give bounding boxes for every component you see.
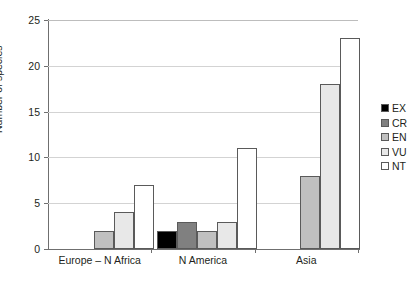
category-label: Asia — [255, 254, 358, 266]
category-tick — [358, 249, 359, 253]
legend-swatch-icon — [381, 133, 389, 141]
y-tick-label-0: 0 — [0, 243, 40, 255]
y-tick-label-25: 25 — [0, 14, 40, 26]
bar-group-bars — [157, 20, 257, 249]
bar-en — [300, 176, 320, 249]
legend-swatch-icon — [381, 104, 389, 112]
legend-item-label: VU — [392, 147, 407, 158]
legend-item-vu[interactable]: VU — [381, 145, 420, 160]
legend-swatch-icon — [381, 119, 389, 127]
bar-vu — [217, 222, 237, 249]
bar-en — [94, 231, 114, 249]
y-tick-label-10: 10 — [0, 151, 40, 163]
plot-area — [48, 20, 358, 249]
category-label: Europe – N Africa — [48, 254, 151, 266]
legend-swatch-icon — [381, 148, 389, 156]
bar-group-bars — [260, 20, 360, 249]
bar-chart-figure: Number of species 0510152025 Europe – N … — [0, 0, 420, 281]
legend: EXCRENVUNT — [381, 101, 420, 174]
category-label: N America — [151, 254, 254, 266]
bar-group — [48, 20, 151, 249]
legend-swatch-icon — [381, 162, 389, 170]
legend-item-label: CR — [392, 118, 407, 129]
bar-nt — [340, 38, 360, 249]
y-tick-label-20: 20 — [0, 60, 40, 72]
x-axis-line — [48, 249, 360, 250]
legend-item-label: NT — [392, 161, 406, 172]
bar-group — [255, 20, 358, 249]
bar-vu — [320, 84, 340, 249]
bar-en — [197, 231, 217, 249]
y-tick-label-5: 5 — [0, 197, 40, 209]
bar-ex — [157, 231, 177, 249]
y-tick-label-15: 15 — [0, 106, 40, 118]
legend-item-nt[interactable]: NT — [381, 159, 420, 174]
legend-item-en[interactable]: EN — [381, 130, 420, 145]
category-tick — [255, 249, 256, 253]
legend-item-ex[interactable]: EX — [381, 101, 420, 116]
category-tick — [151, 249, 152, 253]
legend-item-label: EX — [392, 103, 406, 114]
y-axis-label: Number of species — [0, 45, 4, 133]
legend-item-label: EN — [392, 132, 407, 143]
legend-item-cr[interactable]: CR — [381, 116, 420, 131]
bar-vu — [114, 212, 134, 249]
bar-group — [151, 20, 254, 249]
clipped-title-remnant — [0, 0, 420, 3]
bar-cr — [177, 222, 197, 249]
bar-group-bars — [54, 20, 154, 249]
